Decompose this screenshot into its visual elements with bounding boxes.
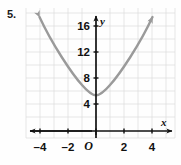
x-tick-label: 2: [121, 141, 127, 153]
x-tick-label: –2: [62, 141, 75, 153]
y-tick-label: 12: [77, 46, 90, 58]
plot-background: [26, 8, 175, 138]
origin-label: O: [84, 139, 93, 153]
figure-panel: 5.: [0, 0, 181, 165]
x-tick-labels: –4 –2 2 4: [34, 141, 156, 153]
x-axis-label: x: [160, 116, 167, 128]
y-axis-label: y: [98, 15, 105, 27]
parabola-graph: –4 –2 2 4 16 12 8 4 O y x: [0, 0, 181, 165]
x-tick-label: 4: [149, 141, 156, 153]
y-tick-label: 4: [84, 98, 91, 110]
y-tick-label: 8: [84, 72, 91, 84]
y-tick-label: 16: [77, 20, 90, 32]
x-tick-label: –4: [34, 141, 47, 153]
